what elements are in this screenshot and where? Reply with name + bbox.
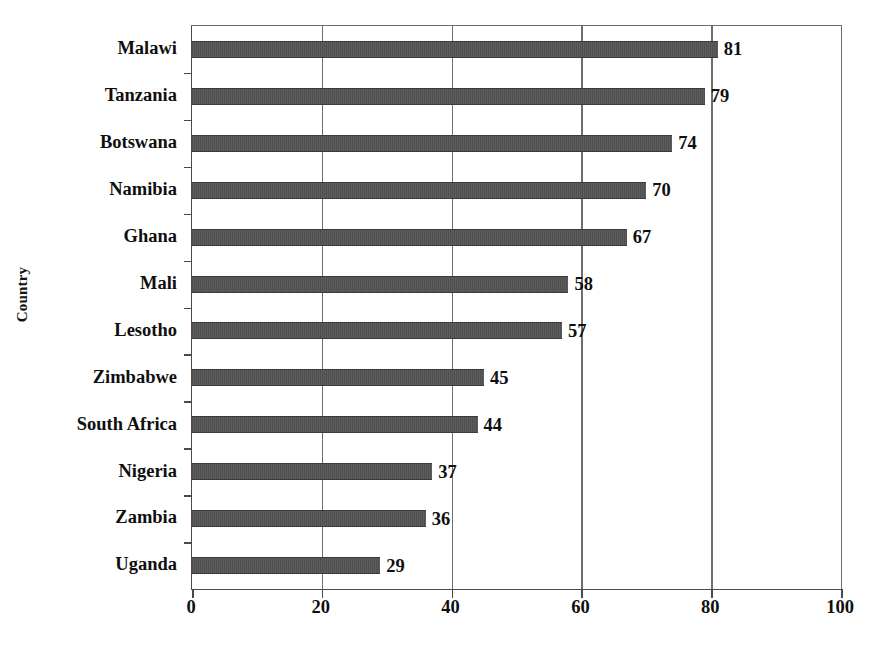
y-axis-tick xyxy=(184,495,192,497)
y-axis-tick-label: Tanzania xyxy=(46,72,185,119)
bars-group: 817974706758574544373629 xyxy=(192,26,841,589)
bar-row: 67 xyxy=(192,214,841,261)
bar-value-label: 81 xyxy=(724,40,743,59)
y-axis-tick-label: Nigeria xyxy=(46,447,185,494)
bar-row: 70 xyxy=(192,167,841,214)
y-axis-tick xyxy=(184,261,192,263)
bar[interactable]: 44 xyxy=(192,416,478,433)
bar-value-label: 74 xyxy=(678,134,697,153)
bar-row: 81 xyxy=(192,26,841,73)
y-axis-tick-label: Botswana xyxy=(46,119,185,166)
y-axis-tick xyxy=(184,73,192,75)
bar-value-label: 70 xyxy=(652,181,671,200)
bar-row: 37 xyxy=(192,448,841,495)
y-axis-tick-label: Mali xyxy=(46,260,185,307)
bar-value-label: 44 xyxy=(484,416,503,435)
bar-row: 79 xyxy=(192,73,841,120)
bar[interactable]: 57 xyxy=(192,322,562,339)
bar-row: 36 xyxy=(192,495,841,542)
y-axis-tick-label: South Africa xyxy=(46,400,185,447)
y-axis-tick xyxy=(184,354,192,356)
y-axis-tick xyxy=(184,308,192,310)
bar-chart: Country MalawiTanzaniaBotswanaNamibiaGha… xyxy=(0,0,874,657)
bar-value-label: 29 xyxy=(386,556,405,575)
y-axis-tick xyxy=(184,120,192,122)
bar[interactable]: 29 xyxy=(192,557,380,574)
y-axis-tick-labels: MalawiTanzaniaBotswanaNamibiaGhanaMaliLe… xyxy=(46,25,185,588)
y-axis-tick-label: Namibia xyxy=(46,166,185,213)
bar-row: 44 xyxy=(192,401,841,448)
y-axis-title: Country xyxy=(0,0,46,588)
bar-value-label: 36 xyxy=(432,509,451,528)
x-axis-tick-label: 100 xyxy=(826,598,854,617)
x-axis-tick-labels: 020406080100 xyxy=(191,598,840,632)
x-axis-tick-label: 20 xyxy=(312,598,331,617)
y-axis-tick xyxy=(184,542,192,544)
plot-area: 817974706758574544373629 xyxy=(191,25,842,590)
bar-value-label: 37 xyxy=(438,462,457,481)
bar-value-label: 45 xyxy=(490,369,509,388)
y-axis-tick-label: Uganda xyxy=(46,541,185,588)
x-axis-tick-label: 60 xyxy=(571,598,590,617)
bar-row: 58 xyxy=(192,261,841,308)
bar-row: 57 xyxy=(192,308,841,355)
y-axis-title-text: Country xyxy=(15,266,32,322)
bar-value-label: 67 xyxy=(633,228,652,247)
bar-row: 74 xyxy=(192,120,841,167)
y-axis-tick-label: Zimbabwe xyxy=(46,353,185,400)
bar[interactable]: 37 xyxy=(192,463,432,480)
y-axis-tick xyxy=(184,448,192,450)
bar[interactable]: 67 xyxy=(192,229,627,246)
bar-row: 29 xyxy=(192,542,841,589)
bar[interactable]: 36 xyxy=(192,510,426,527)
bar[interactable]: 58 xyxy=(192,276,568,293)
bar[interactable]: 70 xyxy=(192,182,646,199)
bar[interactable]: 74 xyxy=(192,135,672,152)
x-axis-tick-label: 80 xyxy=(701,598,720,617)
x-axis-tick-label: 40 xyxy=(441,598,460,617)
x-axis-tick-label: 0 xyxy=(186,598,195,617)
bar[interactable]: 45 xyxy=(192,369,484,386)
bar-value-label: 57 xyxy=(568,322,587,341)
bar[interactable]: 81 xyxy=(192,41,718,58)
y-axis-tick-label: Lesotho xyxy=(46,307,185,354)
y-axis-tick-label: Ghana xyxy=(46,213,185,260)
y-axis-tick xyxy=(184,214,192,216)
bar-value-label: 79 xyxy=(711,87,730,106)
y-axis-tick-label: Malawi xyxy=(46,25,185,72)
y-axis-tick xyxy=(184,401,192,403)
y-axis-tick-label: Zambia xyxy=(46,494,185,541)
y-axis-tick xyxy=(184,167,192,169)
bar-value-label: 58 xyxy=(574,275,593,294)
bar-row: 45 xyxy=(192,354,841,401)
bar[interactable]: 79 xyxy=(192,88,705,105)
